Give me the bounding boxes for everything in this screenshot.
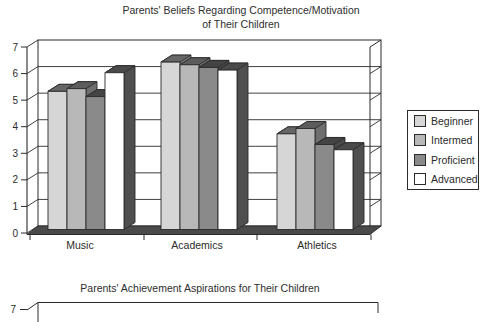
right-wall-step-1 [370, 199, 381, 206]
y-tick-label-6: 6 [12, 68, 18, 79]
legend-item-proficient: Proficient [408, 150, 478, 170]
y-tick-slant-6 [27, 67, 38, 74]
beliefs-chart-title: Parents' Beliefs Regarding Competence/Mo… [0, 3, 482, 31]
y-tick-slant-5 [27, 93, 38, 100]
category-label-music: Music [66, 239, 93, 251]
right-wall-step-6 [370, 67, 381, 74]
legend-label-proficient: Proficient [431, 154, 475, 166]
bar-Proficient-Athletics [315, 144, 334, 229]
aspirations-wall-slant [27, 303, 38, 311]
legend-swatch-advanced [414, 173, 426, 185]
y-tick-label-2: 2 [12, 174, 18, 185]
right-wall-step-3 [370, 146, 381, 153]
beliefs-chart-title-line2: of Their Children [0, 17, 482, 31]
right-wall-step-4 [370, 120, 381, 127]
y-tick-slant-2 [27, 173, 38, 180]
y-tick-label-7: 7 [12, 42, 18, 53]
category-label-athletics: Athletics [297, 239, 337, 251]
aspirations-chart-title: Parents' Achievement Aspirations for The… [0, 281, 400, 295]
right-wall-step-5 [370, 93, 381, 100]
legend-swatch-beginner [414, 115, 426, 127]
y-tick-label-1: 1 [12, 201, 18, 212]
aspirations-chart-fragment: 7 [0, 294, 482, 322]
bar-Intermed-Music [67, 89, 86, 230]
aspirations-y-tick-label-7: 7 [10, 304, 16, 315]
y-tick-label-3: 3 [12, 148, 18, 159]
y-tick-label-0: 0 [12, 228, 18, 239]
legend-label-intermed: Intermed [431, 134, 472, 146]
bar-Beginner-Athletics [277, 134, 296, 230]
y-tick-slant-7 [27, 40, 38, 47]
legend-item-advanced: Advanced [408, 170, 478, 190]
y-tick-slant-1 [27, 199, 38, 206]
beliefs-chart-title-line1: Parents' Beliefs Regarding Competence/Mo… [0, 3, 482, 17]
y-tick-label-4: 4 [12, 121, 18, 132]
bar-Proficient-Academics [199, 67, 218, 229]
bar-Intermed-Academics [180, 65, 199, 230]
y-tick-slant-4 [27, 120, 38, 127]
legend-swatch-proficient [414, 154, 426, 166]
right-wall-top-slant [370, 40, 381, 47]
legend-item-beginner: Beginner [408, 111, 478, 131]
legend-label-advanced: Advanced [431, 173, 478, 185]
legend-item-intermed: Intermed [408, 131, 478, 151]
y-tick-slant-3 [27, 146, 38, 153]
bar-Intermed-Athletics [296, 129, 315, 230]
y-tick-label-5: 5 [12, 95, 18, 106]
bar-Beginner-Academics [161, 62, 180, 229]
bar-Advanced-Athletics [334, 150, 353, 230]
category-label-academics: Academics [171, 239, 222, 251]
legend-swatch-intermed [414, 134, 426, 146]
chart-legend: Beginner Intermed Proficient Advanced [407, 110, 479, 190]
bar-Beginner-Music [48, 91, 67, 229]
bar-Proficient-Music [86, 97, 105, 230]
right-wall-step-2 [370, 173, 381, 180]
legend-label-beginner: Beginner [431, 115, 473, 127]
bar-Advanced-Music [105, 73, 124, 230]
bar-Advanced-Academics [218, 70, 237, 229]
